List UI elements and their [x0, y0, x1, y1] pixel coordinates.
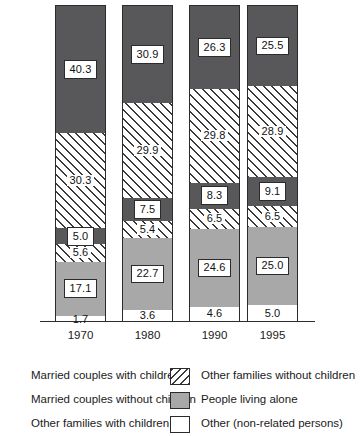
legend-item-married-without-children: Married couples without children — [0, 388, 172, 412]
axis-label-1970: 1970 — [55, 329, 106, 341]
segment-value: 30.9 — [131, 45, 165, 64]
bar-segment: 24.6 — [189, 229, 240, 306]
bar-segment: 5.0 — [247, 305, 298, 322]
segment-value: 29.8 — [202, 130, 228, 141]
legend-label: People living alone — [201, 394, 298, 406]
legend-swatch-gray-icon — [170, 392, 190, 409]
bar-segment: 25.0 — [247, 227, 298, 306]
bar-segment: 30.3 — [55, 133, 106, 228]
segment-value: 17.1 — [64, 279, 98, 298]
bar-segment: 28.9 — [247, 86, 298, 177]
bar-segment: 6.5 — [247, 206, 298, 226]
legend-swatch-white-icon — [170, 416, 190, 433]
legend-item-married-with-children: Married couples with children — [0, 364, 172, 388]
segment-value: 5.4 — [138, 224, 158, 235]
segment-value: 9.1 — [259, 182, 287, 201]
segment-value: 1.7 — [73, 314, 89, 325]
segment-value: 5.0 — [67, 227, 95, 246]
legend-swatch-icon — [0, 416, 20, 433]
legend-label: Other families with children — [31, 418, 169, 430]
segment-value: 28.9 — [260, 126, 286, 137]
segment-value: 5.6 — [71, 247, 91, 258]
bar-column-1970: 40.3 30.3 5.0 5.6 17.1 1.7 — [55, 5, 106, 322]
bar-segment: 29.9 — [122, 103, 173, 197]
legend-item-other-families-without-children: Other families without children — [170, 364, 362, 388]
bar-segment: 4.6 — [189, 307, 240, 322]
bar-segment: 5.0 — [55, 228, 106, 244]
segment-value: 26.3 — [198, 38, 232, 57]
legend-label: Other families without children — [201, 370, 355, 382]
bar-column-1995: 25.5 28.9 9.1 6.5 25.0 5.0 — [247, 5, 298, 322]
segment-value: 30.3 — [68, 175, 94, 186]
legend-item-other-non-related: Other (non-related persons) — [170, 412, 362, 436]
bar-segment: 7.5 — [122, 198, 173, 222]
legend-label: Married couples with children — [31, 370, 180, 382]
bar-segment: 5.6 — [55, 244, 106, 262]
bar-segment: 30.9 — [122, 5, 173, 103]
segment-value: 8.3 — [201, 186, 229, 205]
segment-value: 4.6 — [205, 308, 225, 319]
segment-value: 25.0 — [256, 257, 290, 276]
chart-legend: Married couples with children Married co… — [0, 364, 362, 436]
segment-value: 40.3 — [64, 60, 98, 79]
bar-column-1980: 30.9 29.9 7.5 5.4 22.7 3.6 — [122, 5, 173, 322]
legend-swatch-icon — [0, 392, 20, 409]
stacked-bar-chart: 40.3 30.3 5.0 5.6 17.1 1.7 30.9 29.9 7.5… — [0, 0, 362, 330]
legend-item-people-living-alone: People living alone — [170, 388, 362, 412]
segment-value: 6.5 — [263, 211, 283, 222]
bar-segment: 9.1 — [247, 177, 298, 206]
bar-segment: 29.8 — [189, 89, 240, 183]
segment-value: 24.6 — [198, 259, 232, 278]
bar-segment: 25.5 — [247, 5, 298, 86]
axis-label-1990: 1990 — [189, 329, 240, 341]
segment-value: 3.6 — [138, 310, 158, 321]
segment-value: 29.9 — [135, 145, 161, 156]
legend-swatch-icon — [0, 368, 20, 385]
legend-column-right: Other families without children People l… — [170, 364, 362, 436]
axis-label-1995: 1995 — [247, 329, 298, 341]
legend-label: Other (non-related persons) — [201, 418, 343, 430]
bar-segment: 26.3 — [189, 5, 240, 89]
bar-segment: 17.1 — [55, 262, 106, 316]
axis-label-1980: 1980 — [122, 329, 173, 341]
legend-swatch-hatch-icon — [170, 368, 190, 385]
legend-item-other-families-with-children: Other families with children — [0, 412, 172, 436]
bar-column-1990: 26.3 29.8 8.3 6.5 24.6 4.6 — [189, 5, 240, 322]
legend-column-left: Married couples with children Married co… — [2, 364, 172, 436]
segment-value: 6.5 — [205, 213, 225, 224]
bar-segment: 6.5 — [189, 209, 240, 229]
bar-segment: 5.4 — [122, 221, 173, 238]
segment-value: 22.7 — [131, 265, 165, 284]
segment-value: 25.5 — [256, 37, 290, 56]
bar-segment: 8.3 — [189, 183, 240, 209]
bar-segment: 40.3 — [55, 5, 106, 133]
segment-value: 7.5 — [134, 200, 162, 219]
segment-value: 5.0 — [263, 308, 283, 319]
bar-segment: 22.7 — [122, 238, 173, 310]
